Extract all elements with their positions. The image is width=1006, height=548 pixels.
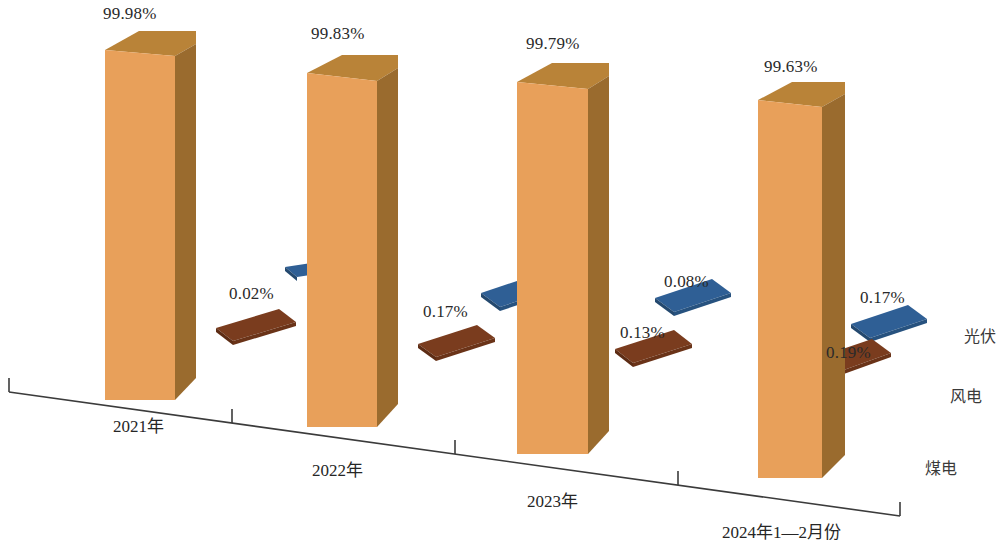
value-label-wind-2023: 0.13% bbox=[620, 323, 665, 343]
x-axis-label-2023: 2023年 bbox=[527, 487, 578, 512]
coal-bar-2022 bbox=[307, 55, 398, 427]
value-label-coal-2021: 99.98% bbox=[103, 4, 157, 24]
series-label-coal: 煤电 bbox=[925, 455, 957, 479]
coal-bar-2021 bbox=[105, 31, 196, 400]
x-axis-label-2024: 2024年1—2月份 bbox=[722, 518, 841, 543]
value-label-wind-2022: 0.17% bbox=[423, 302, 468, 322]
value-label-coal-2024: 99.63% bbox=[764, 57, 818, 77]
value-label-wind-2024: 0.19% bbox=[826, 343, 871, 363]
value-label-wind-2021: 0.02% bbox=[229, 284, 274, 304]
coal-bar-2023 bbox=[517, 63, 609, 454]
wind-bar-2022 bbox=[418, 325, 495, 361]
value-label-solar-2023: 0.08% bbox=[664, 272, 709, 292]
x-axis-label-2021: 2021年 bbox=[113, 412, 164, 437]
coal-bar-2024 bbox=[758, 82, 845, 478]
x-axis-label-2022: 2022年 bbox=[312, 456, 363, 481]
series-label-solar: 光伏 bbox=[964, 323, 996, 347]
value-label-coal-2023: 99.79% bbox=[526, 34, 580, 54]
solar-bar-2024 bbox=[851, 305, 927, 342]
chart-graphics bbox=[0, 0, 1006, 548]
series-label-wind: 风电 bbox=[950, 383, 982, 407]
value-label-solar-2024: 0.17% bbox=[860, 288, 905, 308]
wind-bar-2021 bbox=[216, 309, 296, 345]
chart-canvas: 99.98% 99.83% 99.79% 99.63% 0.02% 0.17% … bbox=[0, 0, 1006, 548]
value-label-coal-2022: 99.83% bbox=[311, 24, 365, 44]
